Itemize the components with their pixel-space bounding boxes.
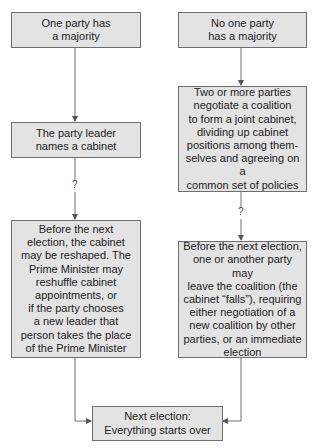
box-coalition-falls: Before the next election, one or another… (178, 241, 307, 358)
right-question-mark: ? (238, 206, 244, 217)
box-cabinet-reshaped: Before the next election, the cabinet ma… (11, 220, 141, 358)
box-leader-names-cabinet: The party leader names a cabinet (11, 122, 141, 158)
left-question-mark: ? (72, 179, 78, 190)
box-one-party-majority: One party has a majority (11, 12, 141, 48)
box-coalition-negotiation: Two or more parties negotiate a coalitio… (178, 86, 307, 192)
box-next-election: Next election: Everything starts over (92, 406, 223, 441)
box-no-party-majority: No one party has a majority (178, 12, 307, 48)
